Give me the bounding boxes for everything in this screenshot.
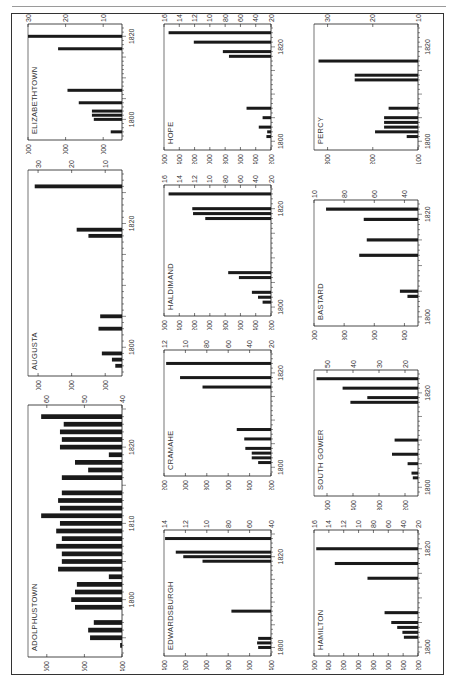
- value-tick-label: 400: [252, 154, 259, 164]
- bar: [41, 513, 122, 518]
- bar: [180, 376, 271, 379]
- value-tick-label: 600: [43, 661, 50, 671]
- bar: [258, 646, 271, 649]
- bar: [62, 491, 122, 496]
- bar: [223, 50, 271, 53]
- value-tick-label: 400: [246, 340, 253, 348]
- chart-panel-south-gower: 18001820200200300300400400500500SOUTH GO…: [300, 360, 442, 510]
- bar: [79, 101, 122, 104]
- value-tick-label: 1000: [206, 154, 213, 164]
- value-tick-label: 800: [222, 320, 229, 330]
- bar: [355, 78, 418, 81]
- value-tick-label: 200: [268, 175, 275, 183]
- value-tick-label: 3000: [25, 144, 32, 154]
- value-tick-label: 200: [268, 14, 275, 22]
- bar: [407, 135, 418, 138]
- value-tick-label: 100: [415, 14, 422, 22]
- value-tick-label: 400: [268, 660, 275, 670]
- value-tick-label: 600: [237, 14, 244, 22]
- value-tick-label: 1400: [161, 520, 168, 528]
- bar: [326, 208, 418, 211]
- value-tick-label: 200: [415, 520, 422, 528]
- value-tick-label: 600: [246, 520, 253, 528]
- chart-title: HOPE: [166, 122, 175, 144]
- bar: [404, 636, 418, 639]
- value-tick-label: 200: [369, 154, 376, 164]
- bar: [62, 536, 122, 541]
- year-tick-label: 1820: [424, 39, 431, 55]
- value-tick-label: 1600: [311, 520, 318, 528]
- bar: [375, 130, 418, 133]
- value-tick-label: 600: [237, 154, 244, 164]
- bar: [316, 547, 418, 550]
- bar: [90, 635, 122, 640]
- chart-panel-cramahe: 1800182020020040040060060080080010001000…: [150, 340, 295, 490]
- bar: [252, 291, 271, 294]
- value-tick-label: 600: [371, 330, 378, 340]
- bar: [58, 567, 122, 572]
- bar: [229, 55, 271, 58]
- value-tick-label: 200: [402, 360, 409, 368]
- bar: [58, 498, 122, 503]
- bar: [228, 271, 271, 274]
- value-tick-label: 1400: [176, 14, 183, 22]
- value-tick-label: 400: [252, 175, 259, 183]
- chart-panel-bastard: 1800182040040060060080080010001000BASTAR…: [300, 190, 442, 340]
- value-tick-label: 3000: [35, 380, 42, 390]
- bar: [35, 184, 122, 188]
- value-tick-label: 200: [402, 500, 409, 510]
- value-tick-label: 1200: [161, 340, 168, 348]
- value-tick-label: 200: [415, 660, 422, 670]
- value-tick-label: 2000: [68, 380, 75, 390]
- value-tick-label: 1400: [325, 660, 332, 670]
- value-tick-label: 1600: [161, 154, 168, 164]
- bar: [60, 521, 122, 526]
- bar: [60, 506, 122, 511]
- value-tick-label: 3000: [25, 14, 32, 22]
- value-tick-label: 300: [376, 500, 383, 510]
- chart-panel-haldimand: 1800182020020040040060060080080010001000…: [150, 175, 295, 330]
- value-tick-label: 1000: [182, 340, 189, 348]
- bar: [176, 551, 271, 554]
- bar: [92, 110, 122, 113]
- chart-panel-elizabethtown: 18001820100010002000200030003000ELIZABET…: [14, 14, 146, 154]
- value-tick-label: 500: [81, 661, 88, 671]
- value-tick-label: 1200: [191, 154, 198, 164]
- value-tick-label: 800: [203, 480, 210, 490]
- bar: [183, 555, 271, 558]
- value-tick-label: 400: [252, 320, 259, 330]
- value-tick-label: 2000: [62, 14, 69, 22]
- chart-panel-hope: 1800182020020040040060060080080010001000…: [150, 14, 295, 164]
- value-tick-label: 1200: [340, 660, 347, 670]
- year-tick-label: 1800: [277, 640, 284, 656]
- value-tick-label: 600: [246, 660, 253, 670]
- bar: [335, 562, 418, 565]
- year-tick-label: 1820: [277, 365, 284, 381]
- value-tick-label: 200: [268, 480, 275, 490]
- value-tick-label: 1000: [355, 520, 362, 528]
- bar: [62, 437, 122, 442]
- year-tick-label: 1800: [128, 592, 135, 608]
- year-tick-label: 1820: [277, 549, 284, 565]
- bar: [62, 552, 122, 557]
- value-tick-label: 1000: [100, 144, 107, 154]
- value-tick-label: 1000: [206, 320, 213, 330]
- bar: [258, 461, 271, 464]
- year-tick-label: 1800: [277, 459, 284, 475]
- bar: [60, 445, 122, 450]
- bar: [120, 643, 122, 648]
- value-tick-label: 1200: [191, 175, 198, 183]
- bar: [245, 447, 271, 450]
- bar: [165, 537, 271, 540]
- value-tick-label: 1000: [206, 14, 213, 22]
- chart-panel-hamilton: 1800182020020040040060060080080010001000…: [300, 520, 442, 670]
- bar: [77, 228, 122, 232]
- bar: [355, 74, 418, 77]
- bar: [252, 456, 271, 459]
- bar: [192, 207, 271, 210]
- value-tick-label: 400: [350, 500, 357, 510]
- bar: [193, 212, 271, 215]
- bar: [99, 327, 123, 331]
- value-tick-label: 600: [225, 480, 232, 490]
- value-tick-label: 1000: [206, 175, 213, 183]
